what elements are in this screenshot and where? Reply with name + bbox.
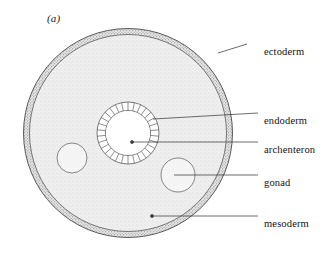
gonad-left <box>57 143 87 173</box>
label-ectoderm: ectoderm <box>264 47 304 58</box>
label-archenteron: archenteron <box>264 145 315 156</box>
archenteron-lumen <box>106 111 150 155</box>
label-endoderm: endoderm <box>264 116 307 127</box>
panel-label-a: (a) <box>47 12 60 24</box>
label-mesoderm: mesoderm <box>264 219 309 230</box>
figure-canvas: (a) ectoderm endoderm archenteron gonad … <box>0 0 332 269</box>
label-gonad: gonad <box>264 178 290 189</box>
